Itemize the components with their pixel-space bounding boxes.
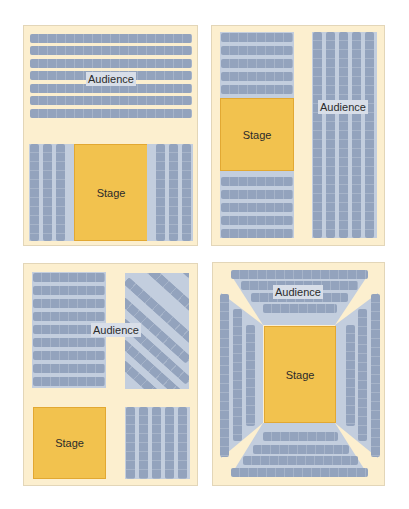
seat-row — [33, 364, 105, 373]
stage: Stage — [33, 407, 106, 479]
seat-column — [169, 144, 178, 241]
layout-4-panel: Audience Stage — [212, 262, 385, 486]
stage-label: Stage — [97, 187, 126, 199]
seat-row — [221, 203, 293, 212]
audience-label: Audience — [273, 285, 323, 299]
seat-column — [30, 144, 39, 241]
seat-row — [221, 46, 293, 55]
layout-3-panel: Audience Stage — [23, 263, 198, 486]
seat-row — [221, 216, 293, 225]
seat-column — [339, 32, 348, 238]
seat-column — [352, 32, 361, 238]
stage-label: Stage — [243, 129, 272, 141]
audience-label: Audience — [86, 72, 136, 86]
seat-column — [165, 407, 174, 479]
seat-row — [33, 312, 105, 321]
seat-row — [221, 72, 293, 81]
seat-row — [263, 432, 338, 441]
stage-label: Stage — [286, 369, 315, 381]
seat-row — [221, 85, 293, 94]
seat-row — [243, 456, 358, 465]
seat-column — [371, 294, 380, 457]
seat-column — [358, 309, 367, 441]
seat-column — [313, 32, 322, 238]
seat-column — [178, 407, 187, 479]
seat-row — [30, 59, 192, 68]
stage-label: Stage — [55, 437, 84, 449]
seat-column — [156, 144, 165, 241]
seat-column — [152, 407, 161, 479]
seat-column — [365, 32, 374, 238]
seat-row — [231, 468, 368, 477]
seat-row — [33, 377, 105, 386]
layout-1-panel: Audience Stage — [23, 25, 198, 246]
seat-row — [221, 59, 293, 68]
stage: Stage — [264, 326, 336, 423]
seat-row — [33, 286, 105, 295]
seat-row — [30, 109, 192, 118]
seat-row — [221, 190, 293, 199]
seat-row — [253, 445, 349, 454]
seat-column — [220, 294, 229, 457]
seat-row — [30, 34, 192, 43]
seat-column — [43, 144, 52, 241]
seat-row — [33, 338, 105, 347]
seat-row — [33, 351, 105, 360]
seat-row — [221, 229, 293, 238]
seat-column — [182, 144, 191, 241]
seat-row — [30, 96, 192, 105]
seat-row — [30, 46, 192, 55]
seat-column — [139, 407, 148, 479]
seat-row — [221, 33, 293, 42]
seat-row — [263, 304, 337, 313]
audience-label: Audience — [91, 323, 141, 337]
seat-column — [246, 325, 255, 426]
seat-row — [33, 273, 105, 282]
seat-column — [56, 144, 65, 241]
seat-column — [126, 407, 135, 479]
stage: Stage — [74, 144, 148, 241]
seat-column — [346, 325, 355, 426]
layout-2-panel: Stage Audience — [211, 25, 385, 246]
seat-row — [33, 299, 105, 308]
audience-label: Audience — [318, 100, 368, 114]
seat-row — [221, 177, 293, 186]
seat-row — [231, 270, 368, 279]
seat-column — [233, 309, 242, 441]
stage: Stage — [220, 98, 294, 171]
seat-column — [326, 32, 335, 238]
